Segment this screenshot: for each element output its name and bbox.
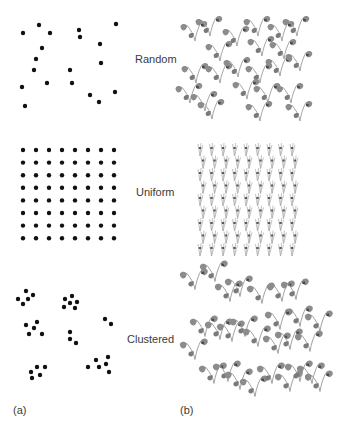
uniform-plant (198, 218, 203, 231)
uniform-dot (21, 173, 25, 177)
clustered-dot (68, 301, 72, 305)
uniform-plant (213, 231, 218, 244)
uniform-plant (233, 218, 238, 231)
uniform-dot (73, 211, 77, 215)
uniform-plant (267, 143, 272, 156)
random-plant (206, 41, 233, 61)
uniform-plant (221, 243, 226, 256)
uniform-plant (198, 193, 203, 206)
uniform-plant (236, 181, 241, 194)
uniform-plant (201, 156, 206, 169)
uniform-dot (73, 186, 77, 190)
uniform-plant (270, 231, 275, 244)
clustered-dot (21, 302, 25, 306)
uniform-plant (244, 218, 249, 231)
clustered-dot (32, 326, 36, 330)
uniform-plant (244, 193, 249, 206)
uniform-dot (73, 148, 77, 152)
uniform-dot (86, 236, 90, 240)
random-dot (68, 68, 72, 72)
uniform-dot (21, 198, 25, 202)
uniform-plant (213, 181, 218, 194)
uniform-dot (112, 160, 116, 164)
uniform-dot (47, 148, 51, 152)
uniform-plant (233, 143, 238, 156)
uniform-dot (21, 236, 25, 240)
clustered-dot (70, 294, 74, 298)
random-plant (182, 63, 209, 83)
uniform-dot (112, 223, 116, 227)
clustered-dot (38, 373, 42, 377)
random-plant (244, 16, 271, 36)
row-label-random: Random (135, 53, 177, 65)
uniform-plant (279, 218, 284, 231)
random-dot (20, 85, 24, 89)
clustered-dot (94, 358, 98, 362)
clustered-dot (31, 293, 35, 297)
uniform-dot (34, 173, 38, 177)
uniform-dot (112, 186, 116, 190)
random-dot (37, 23, 41, 27)
random-plant (176, 83, 203, 103)
clustered-dot (30, 376, 34, 380)
uniform-dot (112, 211, 116, 215)
uniform-dot (21, 211, 25, 215)
uniform-plant (201, 181, 206, 194)
uniform-plant (290, 218, 295, 231)
uniform-plant (279, 193, 284, 206)
figure-canvas (0, 0, 344, 434)
clustered-dot (29, 370, 33, 374)
uniform-dot (73, 173, 77, 177)
uniform-plant (282, 181, 287, 194)
uniform-dot (21, 160, 25, 164)
uniform-dot (47, 186, 51, 190)
uniform-plant (210, 193, 215, 206)
uniform-plant (293, 156, 298, 169)
uniform-plant (210, 168, 215, 181)
uniform-plant (270, 206, 275, 219)
uniform-plant (282, 206, 287, 219)
uniform-plant (198, 243, 203, 256)
clustered-dot (24, 323, 28, 327)
uniform-plant (210, 218, 215, 231)
uniform-plant (290, 243, 295, 256)
clustered-dot (62, 305, 66, 309)
uniform-plant (221, 143, 226, 156)
uniform-dot (99, 198, 103, 202)
uniform-dot (99, 211, 103, 215)
uniform-plant (290, 143, 295, 156)
uniform-plant (256, 243, 261, 256)
uniform-plant (224, 231, 229, 244)
clustered-dot (68, 330, 72, 334)
random-dot (98, 42, 102, 46)
clustered-dot (109, 322, 113, 326)
uniform-plant (221, 168, 226, 181)
random-dot (48, 31, 52, 35)
uniform-plant (282, 156, 287, 169)
clustered-plant (225, 369, 253, 390)
clustered-dot (104, 362, 108, 366)
random-dot (32, 68, 36, 72)
uniform-dot (112, 236, 116, 240)
uniform-plant (256, 193, 261, 206)
uniform-dot (34, 223, 38, 227)
uniform-plant (236, 206, 241, 219)
uniform-dot (73, 223, 77, 227)
uniform-dot (73, 198, 77, 202)
clustered-dot (107, 370, 111, 374)
uniform-dot (60, 148, 64, 152)
uniform-plant (282, 231, 287, 244)
uniform-plant (247, 231, 252, 244)
uniform-plant (293, 181, 298, 194)
uniform-dot (112, 198, 116, 202)
uniform-dot (86, 211, 90, 215)
uniform-dot (86, 160, 90, 164)
uniform-plant (290, 193, 295, 206)
uniform-dot (112, 148, 116, 152)
uniform-dot (47, 198, 51, 202)
panel-label-b: (b) (180, 404, 193, 416)
random-dot (77, 28, 81, 32)
uniform-dot (34, 186, 38, 190)
uniform-plant (236, 156, 241, 169)
uniform-dot (86, 198, 90, 202)
